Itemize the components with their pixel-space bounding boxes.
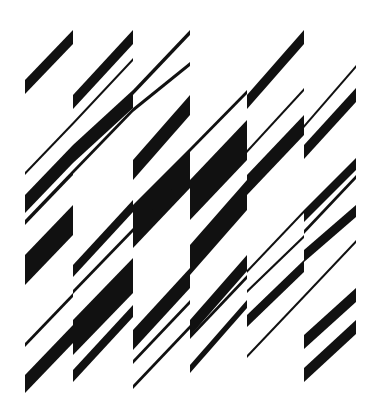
stripe-artwork [0, 0, 379, 410]
